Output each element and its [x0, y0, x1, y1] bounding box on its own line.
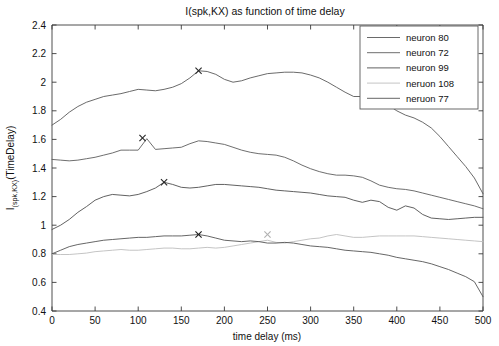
x-tick-label: 350 — [345, 315, 362, 326]
y-tick-label: 0.4 — [32, 306, 46, 317]
y-tick-label: 2.4 — [32, 20, 46, 31]
x-tick-label: 500 — [475, 315, 492, 326]
y-tick-label: 0.8 — [32, 248, 46, 259]
legend-label: neuron 99 — [406, 62, 449, 73]
x-axis-label: time delay (ms) — [233, 331, 301, 342]
chart-title: I(spk,KX) as function of time delay — [185, 5, 345, 17]
legend-label: neruon 77 — [406, 93, 449, 104]
x-tick-label: 300 — [302, 315, 319, 326]
x-tick-label: 150 — [173, 315, 190, 326]
y-tick-label: 1 — [40, 220, 46, 231]
chart-page: I(spk,KX) as function of time delay 0501… — [0, 0, 499, 346]
x-tick-label: 50 — [90, 315, 102, 326]
x-tick-label: 200 — [216, 315, 233, 326]
x-tick-label: 450 — [432, 315, 449, 326]
legend-label: neuron 80 — [406, 32, 449, 43]
x-tick-label: 400 — [388, 315, 405, 326]
legend-label: neuron 72 — [406, 47, 449, 58]
y-tick-label: 1.4 — [32, 163, 46, 174]
x-tick-label: 0 — [49, 315, 55, 326]
y-tick-label: 1.6 — [32, 134, 46, 145]
y-tick-label: 0.6 — [32, 277, 46, 288]
y-tick-label: 1.2 — [32, 191, 46, 202]
legend[interactable]: neuron 80neuron 72neuron 99neruon 108ner… — [360, 26, 478, 109]
chart-canvas: I(spk,KX) as function of time delay 0501… — [0, 0, 499, 346]
x-tick-label: 250 — [259, 315, 276, 326]
x-tick-label: 100 — [130, 315, 147, 326]
y-tick-label: 2 — [40, 77, 46, 88]
y-tick-label: 1.8 — [32, 105, 46, 116]
legend-label: neruon 108 — [406, 78, 454, 89]
y-tick-label: 2.2 — [32, 48, 46, 59]
